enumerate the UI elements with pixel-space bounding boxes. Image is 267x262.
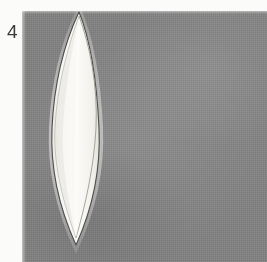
figure-plate: 4 [0,0,267,262]
plate-background-field [22,11,267,262]
figure-number-label: 4 [7,22,18,41]
